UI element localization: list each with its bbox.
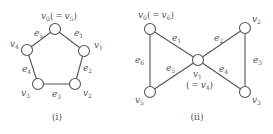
vertex-label-v2: v2 bbox=[83, 88, 92, 99]
edge-label-e1: e1 bbox=[74, 28, 83, 39]
vertex-label-v3: v3 bbox=[21, 88, 30, 99]
edge-label-e5: e5 bbox=[166, 63, 175, 74]
edge-e2 bbox=[198, 28, 245, 60]
edge-label-e3: e3 bbox=[52, 89, 61, 100]
figure-caption-ii: (ii) bbox=[191, 112, 204, 122]
vertex-label-v5: v5 bbox=[135, 95, 144, 106]
vertex-label-v0: v0( = v5) bbox=[41, 11, 77, 22]
edge-label-e2: e2 bbox=[83, 63, 92, 74]
vertex-v1 bbox=[193, 55, 204, 66]
vertex-v2 bbox=[240, 23, 251, 34]
vertex-label-v4: v4 bbox=[10, 39, 19, 50]
vertex-label-v0: v0( = v6) bbox=[138, 10, 174, 21]
vertex-v4 bbox=[22, 45, 33, 56]
vertex-label-v2: v2 bbox=[252, 14, 261, 25]
vertex-v2 bbox=[70, 79, 81, 90]
vertex-v0 bbox=[145, 24, 156, 35]
vertex-v1 bbox=[79, 46, 90, 57]
graph-figure: e1e2e3e4e5v0( = v5)v1v2v3v4(i) e1e2e3e4e… bbox=[0, 0, 273, 134]
vertex-label-v3: v3 bbox=[252, 95, 261, 106]
vertex-label-v1: v1 bbox=[94, 40, 103, 51]
edge-label-e3: e3 bbox=[253, 55, 262, 66]
vertex-v3 bbox=[33, 79, 44, 90]
figure-ii-bowtie-graph: e1e2e3e4e5e6v0( = v6)v1( = v4)v2v3v5(ii) bbox=[135, 10, 262, 122]
edge-label-e5: e5 bbox=[34, 28, 43, 39]
edge-label-e4: e4 bbox=[22, 64, 31, 75]
vertex-alias-v1: ( = v4) bbox=[186, 80, 213, 91]
vertex-label-v1: v1 bbox=[193, 69, 202, 80]
figure-i-pentagon-graph: e1e2e3e4e5v0( = v5)v1v2v3v4(i) bbox=[10, 11, 103, 122]
edge-label-e1: e1 bbox=[172, 33, 181, 44]
figure-caption-i: (i) bbox=[52, 112, 62, 122]
edge-label-e4: e4 bbox=[219, 64, 228, 75]
vertex-v0 bbox=[50, 24, 61, 35]
edge-label-e2: e2 bbox=[214, 33, 223, 44]
vertex-v3 bbox=[240, 87, 251, 98]
edge-label-e6: e6 bbox=[135, 55, 144, 66]
vertex-v5 bbox=[145, 87, 156, 98]
